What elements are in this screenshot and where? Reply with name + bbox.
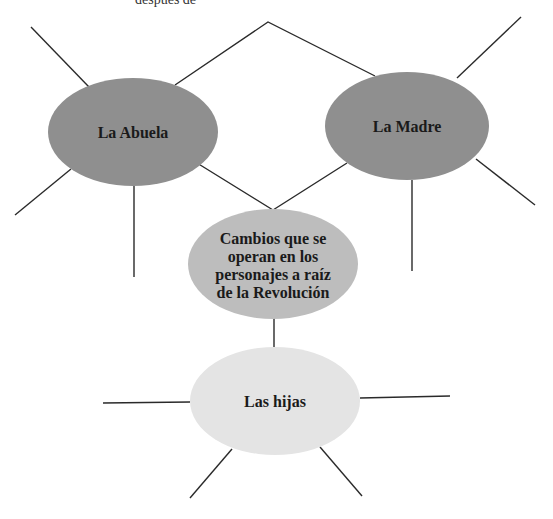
node-center-line-2: operan en los [228,248,319,266]
edge-abuela-madre-top [175,22,375,85]
node-madre-label: La Madre [373,118,442,135]
blank-line-hijas-bottom-left [190,449,232,498]
blank-line-madre-top-right [457,17,521,78]
node-abuela: La Abuela [48,78,218,186]
node-center-line-4: de la Revolución [217,284,330,301]
node-hijas: Las hijas [190,347,360,455]
node-hijas-label: Las hijas [244,393,306,411]
edge-abuela-madre-center [197,163,347,210]
blank-line-abuela-top-left [31,27,89,87]
node-center-line-3: personajes a raíz [215,266,331,284]
blank-line-hijas-bottom-right [320,447,362,496]
concept-map: La Abuela La Madre Cambios que se operan… [0,0,553,519]
blank-line-madre-bottom-right [476,159,535,205]
node-center: Cambios que se operan en los personajes … [188,209,358,319]
blank-line-abuela-bottom-left [15,169,71,215]
node-abuela-label: La Abuela [98,124,169,141]
node-madre: La Madre [325,72,489,180]
blank-line-hijas-left [103,402,190,403]
node-center-line-1: Cambios que se [220,230,327,248]
blank-line-hijas-right [360,396,450,398]
